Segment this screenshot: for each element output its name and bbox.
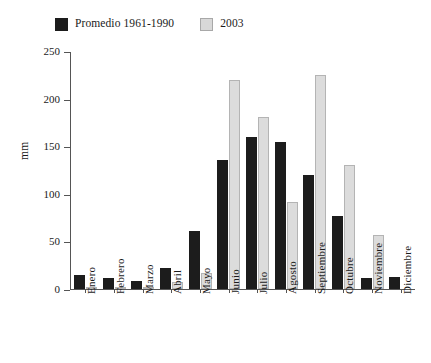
x-axis-label-agosto: Agosto [286, 261, 298, 294]
x-label-cell: Mayo [186, 292, 215, 362]
legend-label-2003: 2003 [220, 18, 243, 30]
bar-group [71, 52, 100, 289]
bar-group [157, 52, 186, 289]
legend-entry-2003: 2003 [200, 18, 243, 31]
x-axis-label-octubre: Octubre [343, 257, 355, 294]
x-axis-label-julio: Julio [257, 272, 269, 294]
legend-label-promedio: Promedio 1961-1990 [75, 18, 174, 30]
legend-swatch-promedio [55, 18, 68, 31]
bar-group [243, 52, 272, 289]
x-label-cell: Noviembre [358, 292, 387, 362]
bar [246, 137, 257, 289]
bar [361, 278, 372, 289]
bar [103, 278, 114, 289]
x-label-cell: Febrero [100, 292, 129, 362]
y-tick-label-250: 250 [26, 45, 60, 58]
y-tick-label-200: 200 [26, 93, 60, 106]
bar-group [329, 52, 358, 289]
bar-group [100, 52, 129, 289]
legend-entry-promedio: Promedio 1961-1990 [55, 18, 174, 31]
x-label-cell: Enero [71, 292, 100, 362]
bar-group [128, 52, 157, 289]
x-label-cell: Septiembre [300, 292, 329, 362]
y-tick-200: 200 [64, 100, 70, 101]
y-tick-100: 100 [64, 195, 70, 196]
bar [275, 142, 286, 289]
bar [189, 231, 200, 289]
bar [217, 160, 228, 289]
x-axis-label-mayo: Mayo [200, 268, 212, 294]
y-tick-label-0: 0 [26, 283, 60, 296]
y-tick-label-100: 100 [26, 188, 60, 201]
x-label-cell: Agosto [272, 292, 301, 362]
bar [74, 275, 85, 289]
y-tick-label-50: 50 [26, 235, 60, 248]
bar [303, 175, 314, 289]
x-axis-label-septiembre: Septiembre [315, 242, 327, 294]
x-axis-labels: EneroFebreroMarzoAbrilMayoJunioJulioAgos… [71, 292, 415, 362]
y-tick-250: 250 [64, 52, 70, 53]
x-axis-label-febrero: Febrero [114, 258, 126, 294]
x-label-cell: Junio [214, 292, 243, 362]
y-tick-50: 50 [64, 242, 70, 243]
bar-group [186, 52, 215, 289]
y-tick-label-150: 150 [26, 140, 60, 153]
x-label-cell: Octubre [329, 292, 358, 362]
x-label-cell: Diciembre [386, 292, 415, 362]
legend-swatch-2003 [200, 18, 213, 31]
bar [258, 117, 269, 289]
chart-legend: Promedio 1961-1990 2003 [55, 16, 244, 32]
x-axis-label-noviembre: Noviembre [372, 243, 384, 294]
x-axis-label-junio: Junio [229, 269, 241, 294]
bar [229, 80, 240, 289]
y-tick-150: 150 [64, 147, 70, 148]
bar [131, 281, 142, 289]
bar-group [214, 52, 243, 289]
x-label-cell: Julio [243, 292, 272, 362]
x-axis-label-diciembre: Diciembre [401, 246, 413, 294]
bar [389, 277, 400, 289]
precipitation-bar-chart: Promedio 1961-1990 2003 mm 0501001502002… [0, 0, 431, 363]
bar-group [272, 52, 301, 289]
x-axis-label-marzo: Marzo [143, 264, 155, 294]
bar [332, 216, 343, 289]
y-tick-0: 0 [64, 290, 70, 291]
plot-area: 050100150200250 [70, 52, 415, 290]
bar-series-container [71, 52, 415, 289]
x-axis-label-abril: Abril [171, 270, 183, 294]
x-axis-label-enero: Enero [85, 267, 97, 294]
x-label-cell: Marzo [128, 292, 157, 362]
x-label-cell: Abril [157, 292, 186, 362]
bar [160, 268, 171, 289]
